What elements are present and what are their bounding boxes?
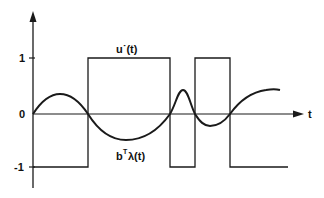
bt-lambda-label-rest: λ(t): [128, 150, 145, 162]
y-tick-1-label: 1: [19, 52, 25, 64]
y-tick-0-label: 0: [19, 108, 25, 120]
y-tick-neg1-label: -1: [14, 161, 24, 173]
bt-lambda-label-b: b: [116, 150, 123, 162]
x-axis-label: t: [308, 108, 312, 120]
u-star-label: u˙(t): [116, 43, 138, 55]
y-axis-arrow-icon: [30, 11, 37, 22]
x-axis-arrow-icon: [293, 111, 304, 118]
u-star-step-curve: [33, 58, 288, 167]
control-diagram: 1 0 -1 t u˙(t) b T λ(t): [0, 0, 324, 198]
bt-lambda-label: b T λ(t): [116, 148, 145, 162]
bt-lambda-curve: [33, 89, 280, 140]
